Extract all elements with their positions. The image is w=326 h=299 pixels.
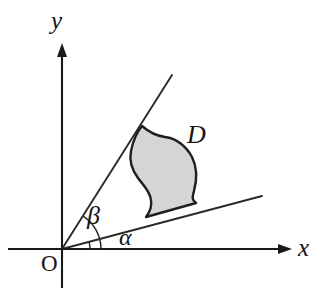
y-axis-label: y xyxy=(51,8,62,33)
x-axis-arrowhead-icon xyxy=(278,244,292,254)
beta-angle-label: β xyxy=(87,203,100,229)
region-d-label: D xyxy=(187,122,206,148)
origin-label: O xyxy=(41,252,58,275)
x-axis-label: x xyxy=(298,235,309,260)
geometry-figure: y x O D α β xyxy=(0,0,326,299)
alpha-angle-arc xyxy=(89,242,90,249)
y-axis-arrowhead-icon xyxy=(57,43,67,57)
alpha-angle-label: α xyxy=(119,225,132,249)
